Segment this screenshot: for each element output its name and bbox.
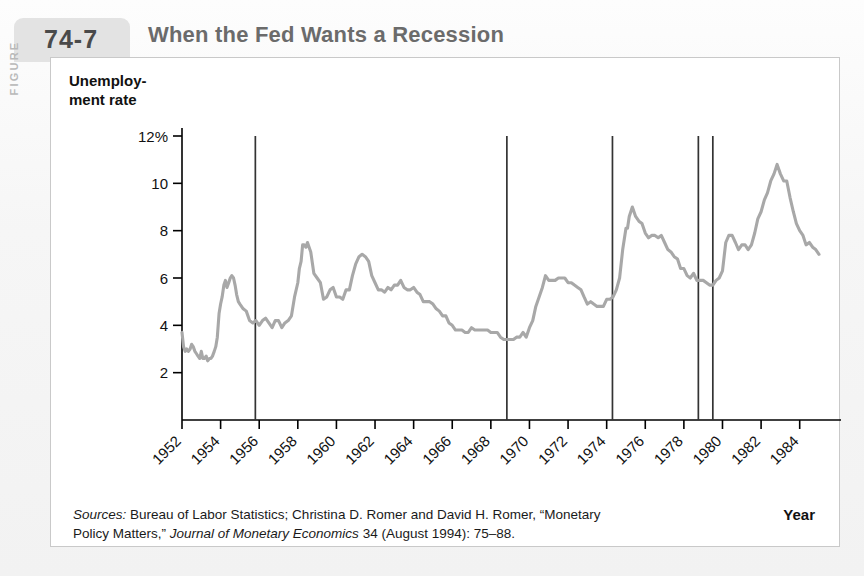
source-line2-b: 34 (August 1994): 75–88.: [359, 526, 515, 541]
source-prefix: Sources:: [73, 507, 126, 522]
svg-text:1974: 1974: [573, 432, 609, 468]
svg-text:1984: 1984: [766, 432, 802, 468]
svg-text:4: 4: [160, 317, 168, 334]
svg-text:2: 2: [160, 364, 168, 381]
svg-text:1968: 1968: [457, 432, 493, 468]
source-journal: Journal of Monetary Economics: [170, 526, 359, 541]
svg-text:1956: 1956: [226, 432, 262, 468]
svg-text:10: 10: [151, 175, 168, 192]
svg-text:6: 6: [160, 270, 168, 287]
svg-text:1978: 1978: [650, 432, 686, 468]
svg-text:1976: 1976: [612, 432, 648, 468]
svg-text:1962: 1962: [342, 432, 378, 468]
chart-panel: Unemploy- ment rate 24681012%19521954195…: [50, 57, 840, 547]
source-note: Sources: Bureau of Labor Statistics; Chr…: [73, 505, 821, 543]
svg-text:1964: 1964: [380, 432, 416, 468]
svg-text:1958: 1958: [264, 432, 300, 468]
unemployment-line-chart: 24681012%1952195419561958196019621964196…: [51, 58, 841, 548]
figure-number: 74-7: [44, 25, 98, 54]
figure-word-label: FIGURE: [8, 32, 20, 104]
svg-text:1980: 1980: [689, 432, 725, 468]
svg-text:1970: 1970: [496, 432, 532, 468]
figure-page: FIGURE 74-7 When the Fed Wants a Recessi…: [0, 0, 864, 576]
svg-text:1954: 1954: [187, 432, 223, 468]
svg-text:8: 8: [160, 222, 168, 239]
svg-text:1966: 1966: [419, 432, 455, 468]
source-line1: Bureau of Labor Statistics; Christina D.…: [126, 507, 600, 522]
svg-text:1960: 1960: [303, 432, 339, 468]
svg-text:1952: 1952: [149, 432, 185, 468]
svg-text:12%: 12%: [138, 128, 168, 145]
source-line2-a: Policy Matters,”: [73, 526, 170, 541]
svg-text:1972: 1972: [535, 432, 571, 468]
figure-title: When the Fed Wants a Recession: [148, 22, 504, 48]
svg-text:1982: 1982: [728, 432, 764, 468]
